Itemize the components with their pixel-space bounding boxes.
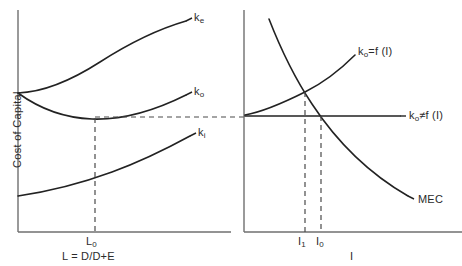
- curve-label-ko-sub: o: [200, 90, 205, 99]
- curve-label-mec: MEC: [418, 193, 443, 205]
- curve-label-ki-sub: i: [204, 131, 206, 140]
- left-x-axis-label-text: L = D/D+E: [62, 250, 115, 262]
- left-x-axis-label: L = D/D+E: [62, 250, 115, 262]
- curve-label-ke-sub: e: [200, 16, 205, 25]
- left-y-axis-label: Cost of Capital: [11, 91, 23, 168]
- left-y-axis-label-text: Cost of Capital: [11, 91, 23, 168]
- curve-label-ko-eq-suffix: =f (I): [368, 45, 392, 57]
- right-x-tick-I0-sub: 0: [319, 240, 324, 249]
- curve-label-ki: ki: [198, 126, 206, 138]
- curve-ki: [18, 136, 190, 196]
- curve-label-ko-neq-sub: o: [415, 114, 420, 123]
- curve-label-ko-neq-text: k: [409, 109, 415, 121]
- curve-label-ko: ko: [194, 85, 204, 97]
- curve-ko: [18, 93, 186, 119]
- curve-label-ke-text: k: [194, 11, 200, 23]
- right-x-tick-I1: I1: [298, 235, 306, 247]
- right-x-axis-label: I: [350, 250, 353, 262]
- right-x-tick-I0: I0: [316, 235, 324, 247]
- curve-label-ko-text: k: [194, 85, 200, 97]
- curve-label-ko-not-equals-f-I: ko≠f (I): [409, 109, 443, 121]
- curve-label-mec-text: MEC: [418, 193, 443, 205]
- curve-label-ki-text: k: [198, 126, 204, 138]
- right-x-axis-label-text: I: [350, 250, 353, 262]
- figure-container: Cost of Capital ke ko ki L0 L = D/D+E ko…: [0, 0, 462, 266]
- leader-mec: [408, 196, 414, 199]
- curve-ke: [18, 21, 186, 93]
- curve-label-ko-neq-suffix: ≠f (I): [419, 109, 443, 121]
- left-panel-axes: [18, 10, 231, 232]
- leader-ko: [186, 92, 192, 95]
- leader-ke: [186, 18, 192, 21]
- left-x-tick-L0-sub: 0: [92, 240, 97, 249]
- figure-svg: [0, 0, 462, 266]
- right-x-tick-I1-sub: 1: [301, 240, 306, 249]
- curve-label-ko-eq-text: k: [358, 45, 364, 57]
- leader-ki: [190, 133, 196, 136]
- curve-label-ko-equals-f-I: ko=f (I): [358, 45, 392, 57]
- curve-label-ko-eq-sub: o: [364, 50, 369, 59]
- left-x-tick-L0: L0: [86, 235, 97, 247]
- curve-label-ke: ke: [194, 11, 204, 23]
